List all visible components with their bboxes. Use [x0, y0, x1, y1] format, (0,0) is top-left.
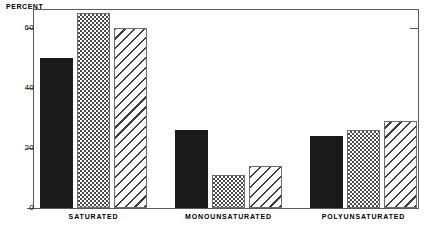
y-tick-label-20: 20: [12, 143, 34, 152]
bar-polyunsaturated-solid-black: [310, 136, 343, 208]
y-tick-label-40: 40: [12, 83, 34, 92]
bar-polyunsaturated-checkered: [347, 130, 380, 208]
bar-chart: PERCENT 6040200 SATURATED MONOUNSATURATE…: [0, 0, 431, 229]
bar-monounsaturated-solid-black: [175, 130, 208, 208]
bar-group-monounsaturated: [175, 10, 282, 208]
bar-saturated-solid-black: [40, 58, 73, 208]
x-axis-label-saturated: SATURATED: [24, 213, 164, 220]
bar-polyunsaturated-diagonal-hatch: [384, 121, 417, 208]
x-axis-line: [33, 208, 419, 209]
bar-group-polyunsaturated: [310, 10, 417, 208]
plot-frame-right: [418, 9, 419, 209]
y-tick-label-60: 60: [12, 23, 34, 32]
y-axis-ticks: 6040200: [0, 0, 34, 229]
bar-saturated-diagonal-hatch: [114, 28, 147, 208]
x-axis-label-monounsaturated: MONOUNSATURATED: [159, 213, 299, 220]
y-tick-label-0: 0: [12, 203, 34, 212]
bar-monounsaturated-diagonal-hatch: [249, 166, 282, 208]
bar-saturated-checkered: [77, 13, 110, 208]
plot-area: [34, 10, 418, 208]
bar-group-saturated: [40, 10, 147, 208]
x-axis-label-polyunsaturated: POLYUNSATURATED: [294, 213, 431, 220]
bar-monounsaturated-checkered: [212, 175, 245, 208]
